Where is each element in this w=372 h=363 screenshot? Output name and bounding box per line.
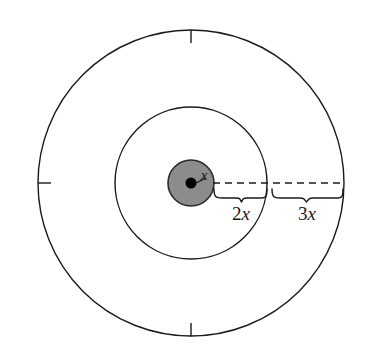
label-inner-radius: x <box>200 167 208 183</box>
label-middle-band-coefficient: 2 <box>232 203 242 224</box>
label-middle-band-variable: x <box>241 203 251 224</box>
figure-container: x 2x 3x <box>0 0 372 363</box>
label-outer-band-variable: x <box>307 203 317 224</box>
label-outer-band-coefficient: 3 <box>298 203 308 224</box>
concentric-circles-diagram: x 2x 3x <box>0 0 372 363</box>
center-dot <box>186 178 197 189</box>
brace-3x-icon <box>272 189 343 202</box>
label-middle-band: 2x <box>232 203 251 224</box>
brace-2x-icon <box>214 189 267 202</box>
label-outer-band: 3x <box>298 203 317 224</box>
